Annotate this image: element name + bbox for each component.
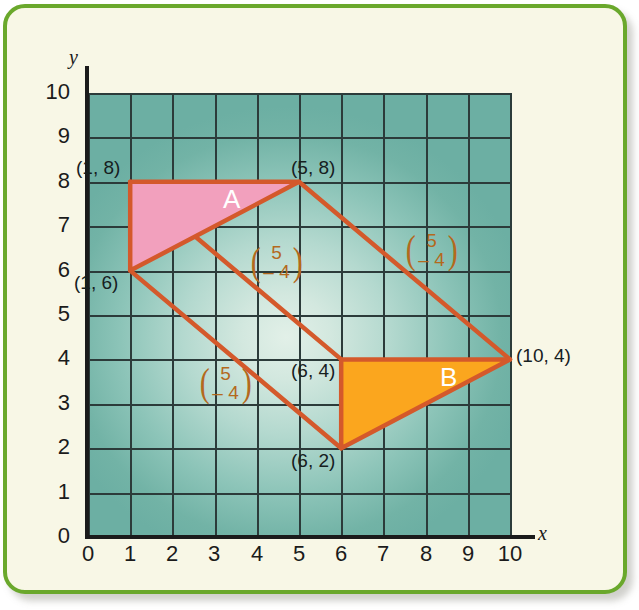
vector-bottom-1: – 4 (263, 262, 289, 281)
vector-paren-close: ) (241, 367, 251, 399)
vector-paren-close: ) (292, 246, 302, 278)
coord-label-1-6: (1, 6) (74, 272, 118, 294)
triangle-b (341, 359, 510, 448)
vector-paren-open: ( (251, 246, 261, 278)
x-tick-0: 0 (68, 541, 108, 567)
x-tick-8: 8 (406, 541, 446, 567)
vector-bottom-3: – 4 (212, 383, 238, 402)
shape-layer (0, 0, 639, 610)
x-tick-4: 4 (237, 541, 277, 567)
coord-label-1-8: (1, 8) (76, 157, 120, 179)
x-tick-6: 6 (321, 541, 361, 567)
coordinate-plane: y x 10 9 8 7 6 5 4 3 2 1 0 0 1 2 3 4 5 6… (0, 0, 639, 610)
vector-top-3: 5 (220, 364, 231, 383)
vector-top-2: 5 (426, 231, 437, 250)
y-tick-2: 2 (36, 434, 70, 460)
y-tick-7: 7 (36, 212, 70, 238)
coord-label-5-8: (5, 8) (291, 157, 335, 179)
x-tick-7: 7 (363, 541, 403, 567)
x-tick-9: 9 (448, 541, 488, 567)
x-tick-3: 3 (194, 541, 234, 567)
x-tick-10: 10 (490, 541, 530, 567)
coord-label-10-4: (10, 4) (516, 345, 571, 367)
coord-label-6-4: (6, 4) (291, 360, 335, 382)
coord-label-6-2: (6, 2) (291, 450, 335, 472)
vector-paren-open: ( (406, 234, 416, 266)
y-tick-8: 8 (36, 168, 70, 194)
translation-line-2 (299, 182, 510, 360)
x-tick-2: 2 (152, 541, 192, 567)
y-tick-9: 9 (36, 123, 70, 149)
y-tick-10: 10 (36, 79, 70, 105)
vector-label-2: ( 5 – 4 ) (404, 231, 459, 269)
y-tick-1: 1 (36, 479, 70, 505)
shape-letter-a: A (223, 184, 240, 215)
vector-paren-close: ) (447, 234, 457, 266)
shape-letter-b: B (440, 362, 457, 393)
y-tick-0: 0 (36, 523, 70, 549)
y-tick-6: 6 (36, 257, 70, 283)
x-tick-5: 5 (279, 541, 319, 567)
vector-top-1: 5 (271, 243, 282, 262)
x-tick-1: 1 (110, 541, 150, 567)
vector-label-3: ( 5 – 4 ) (198, 364, 253, 402)
vector-bottom-2: – 4 (418, 250, 444, 269)
vector-paren-open: ( (200, 367, 210, 399)
y-tick-3: 3 (36, 390, 70, 416)
vector-label-1: ( 5 – 4 ) (249, 243, 304, 281)
y-tick-4: 4 (36, 345, 70, 371)
y-tick-5: 5 (36, 301, 70, 327)
